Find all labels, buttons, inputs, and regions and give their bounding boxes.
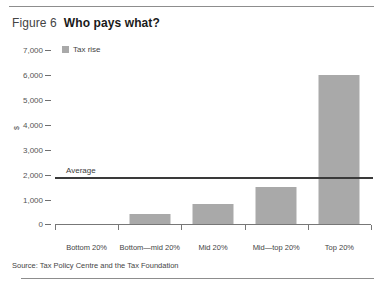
bar-series-group (55, 50, 371, 224)
bar-slot-mid-20 (181, 50, 244, 224)
x-category-mid-20: Mid 20% (181, 243, 244, 252)
average-line-label: Average (66, 166, 96, 175)
y-tick-2000: 2,000 (11, 171, 51, 180)
y-tick-4000: 4,000 (11, 121, 51, 130)
x-axis-line (55, 224, 371, 225)
x-tick-3 (245, 225, 246, 230)
x-category-bottom-mid-20: Bottom—mid 20% (118, 243, 181, 252)
average-reference-line (55, 177, 373, 179)
x-tick-4 (308, 225, 309, 230)
bar-slot-bottom-mid-20 (118, 50, 181, 224)
source-note: Source: Tax Policy Centre and the Tax Fo… (12, 261, 179, 270)
x-tick-1 (118, 225, 119, 230)
y-tick-6000: 6,000 (11, 71, 51, 80)
y-tick-3000: 3,000 (11, 146, 51, 155)
x-category-bottom-20: Bottom 20% (55, 243, 118, 252)
bar-mid-top-20[interactable] (256, 187, 297, 224)
bar-slot-bottom-20 (55, 50, 118, 224)
y-tick-5000: 5,000 (11, 96, 51, 105)
x-tick-0 (55, 225, 56, 230)
x-tick-5 (371, 225, 372, 230)
y-tick-0: 0 (11, 220, 51, 229)
bar-top-20[interactable] (319, 75, 360, 224)
y-tick-7000: 7,000 (11, 46, 51, 55)
bar-slot-mid-top-20 (245, 50, 308, 224)
x-tick-2 (181, 225, 182, 230)
bar-mid-20[interactable] (192, 204, 233, 224)
bottom-divider-rule (21, 278, 374, 279)
bar-slot-top-20 (308, 50, 371, 224)
x-category-top-20: Top 20% (308, 243, 371, 252)
x-category-mid-top-20: Mid—top 20% (245, 243, 308, 252)
bar-chart: $ 7,000 6,000 5,000 4,000 3,000 2,000 1,… (0, 0, 383, 291)
bar-bottom-mid-20[interactable] (129, 214, 170, 224)
y-tick-1000: 1,000 (11, 196, 51, 205)
